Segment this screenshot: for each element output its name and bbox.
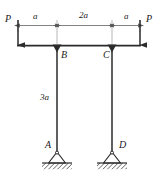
support-label-d: D <box>119 140 126 150</box>
dimension-label-left: a <box>33 12 38 21</box>
dimension-label-height: 3a <box>40 93 49 102</box>
dimension-extension-lines <box>18 20 140 44</box>
column-members <box>57 46 112 152</box>
dimension-label-right: a <box>124 12 129 21</box>
support-a <box>42 151 72 169</box>
load-label-left: P <box>5 14 11 24</box>
support-a-ground-hatch <box>42 163 72 169</box>
support-d <box>97 151 127 169</box>
joint-label-b: B <box>61 50 67 60</box>
support-label-a: A <box>45 140 51 150</box>
support-d-pin <box>111 151 114 154</box>
support-a-pin <box>56 151 59 154</box>
joint-label-c: C <box>103 50 110 60</box>
load-label-right: P <box>146 14 152 24</box>
load-arrows <box>18 20 140 45</box>
dimension-label-middle: 2a <box>79 11 88 20</box>
structural-frame-diagram <box>0 0 158 178</box>
support-d-ground-hatch <box>97 163 127 169</box>
